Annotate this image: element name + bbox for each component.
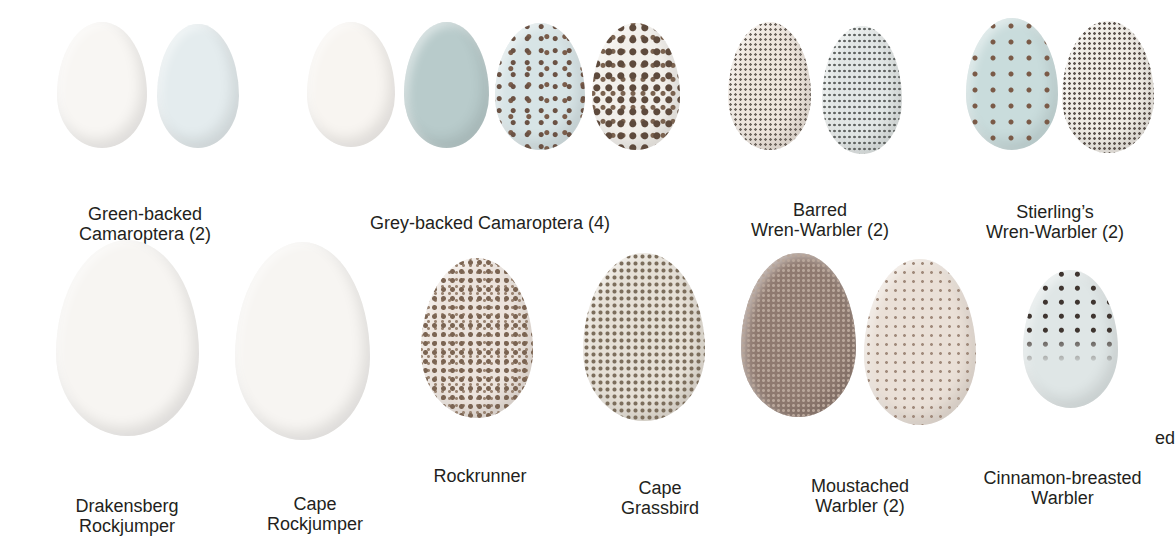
egg-cape-grassbird xyxy=(583,253,705,421)
egg-grey-backed-camaroptera-2 xyxy=(404,22,489,148)
egg-rockrunner xyxy=(421,258,533,418)
partial-label-right-edge: ed xyxy=(1155,428,1175,448)
label-drakensberg-rockjumper: DrakensbergRockjumper xyxy=(52,456,202,540)
egg-moustached-warbler-1 xyxy=(741,253,856,417)
label-cinnamon-breasted-warbler: Cinnamon-breastedWarbler xyxy=(965,428,1160,528)
label-cape-grassbird: CapeGrassbird xyxy=(590,438,730,538)
label-barred-wren-warbler: BarredWren-Warbler (2) xyxy=(730,160,910,260)
egg-cinnamon-breasted-warbler xyxy=(1023,270,1118,408)
egg-moustached-warbler-2 xyxy=(864,259,976,425)
egg-cape-rockjumper xyxy=(235,242,370,440)
label-moustached-warbler: MoustachedWarbler (2) xyxy=(780,436,940,536)
egg-stierlings-wren-warbler-2 xyxy=(1062,21,1154,153)
label-grey-backed-camaroptera: Grey-backed Camaroptera (4) xyxy=(340,173,640,253)
egg-grey-backed-camaroptera-1 xyxy=(307,22,395,147)
egg-barred-wren-warbler-1 xyxy=(728,22,811,150)
egg-grey-backed-camaroptera-4 xyxy=(592,23,680,150)
egg-grey-backed-camaroptera-3 xyxy=(495,23,585,150)
label-rockrunner: Rockrunner xyxy=(410,426,550,506)
label-cape-rockjumper: CapeRockjumper xyxy=(240,454,390,540)
egg-green-backed-camaroptera-1 xyxy=(57,22,147,148)
egg-green-backed-camaroptera-2 xyxy=(157,24,239,148)
egg-stierlings-wren-warbler-1 xyxy=(966,18,1058,150)
egg-barred-wren-warbler-2 xyxy=(822,26,902,154)
label-stierlings-wren-warbler: Stierling’sWren-Warbler (2) xyxy=(955,162,1155,262)
egg-drakensberg-rockjumper xyxy=(56,240,199,436)
